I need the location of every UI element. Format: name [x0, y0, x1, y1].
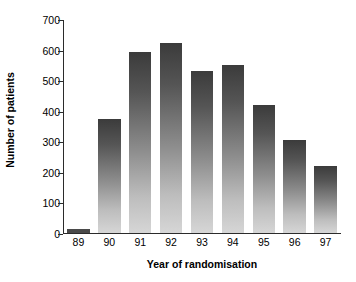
x-tick-label: 90: [103, 237, 115, 248]
y-tick-label: 100: [22, 198, 60, 209]
y-tick-mark: [58, 234, 63, 235]
y-tick-label: 0: [22, 229, 60, 240]
bars-layer: [63, 20, 341, 234]
bar-91: [129, 52, 152, 234]
x-tick-label: 93: [196, 237, 208, 248]
y-axis-title: Number of patients: [0, 0, 20, 240]
y-tick-label: 200: [22, 168, 60, 179]
bar-90: [98, 119, 121, 233]
bar-97: [314, 166, 337, 233]
y-tick-mark: [58, 203, 63, 204]
bar-chart: Number of patients 010020030040050060070…: [0, 0, 356, 282]
bar-93: [191, 71, 214, 233]
bar-89: [67, 229, 90, 233]
x-tick-label: 92: [165, 237, 177, 248]
y-tick-mark: [58, 20, 63, 21]
x-tick-label: 97: [320, 237, 332, 248]
x-tick-label: 95: [258, 237, 270, 248]
y-tick-label: 700: [22, 15, 60, 26]
y-tick-mark: [58, 51, 63, 52]
x-axis-tick-labels: 899091929394959697: [63, 237, 341, 253]
y-tick-mark: [58, 81, 63, 82]
bar-94: [222, 65, 245, 233]
x-tick-label: 96: [289, 237, 301, 248]
y-tick-mark: [58, 142, 63, 143]
y-axis-tick-labels: 0100200300400500600700: [22, 0, 60, 282]
y-tick-label: 300: [22, 137, 60, 148]
bar-92: [160, 43, 183, 233]
bar-95: [253, 105, 276, 233]
x-tick-label: 89: [73, 237, 85, 248]
plot-area: [63, 20, 341, 234]
y-tick-mark: [58, 173, 63, 174]
y-tick-label: 500: [22, 76, 60, 87]
bar-96: [283, 140, 306, 233]
y-tick-label: 400: [22, 106, 60, 117]
x-tick-label: 91: [134, 237, 146, 248]
y-tick-mark: [58, 112, 63, 113]
x-tick-label: 94: [227, 237, 239, 248]
x-axis-title: Year of randomisation: [63, 258, 341, 270]
y-axis-title-text: Number of patients: [4, 72, 16, 168]
y-tick-label: 600: [22, 45, 60, 56]
